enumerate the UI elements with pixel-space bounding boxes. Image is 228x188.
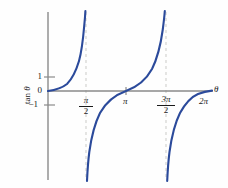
- x-tick-pi-over-2-numerator: π: [79, 96, 93, 105]
- y-tick-label-neg-1: −1: [22, 100, 38, 109]
- y-tick-label-0: 0: [26, 86, 42, 95]
- x-tick-3pi-over-2-numerator: 3π: [157, 95, 175, 104]
- curve-branch-0-to-pi-half: [48, 11, 85, 91]
- x-tick-pi-over-2-denominator: 2: [79, 107, 93, 116]
- tangent-function-chart: tan θ 1 0 −1 π 2 π 3π 2 2π θ: [0, 0, 228, 188]
- x-tick-3pi-over-2-denominator: 2: [157, 106, 175, 115]
- x-tick-label-pi-over-2: π 2: [79, 96, 93, 117]
- x-tick-label-3pi-over-2: 3π 2: [157, 95, 175, 116]
- x-tick-label-pi: π: [123, 97, 128, 106]
- x-tick-label-2pi: 2π: [199, 97, 208, 106]
- y-tick-label-1: 1: [26, 72, 42, 81]
- x-axis-label: θ: [214, 84, 218, 94]
